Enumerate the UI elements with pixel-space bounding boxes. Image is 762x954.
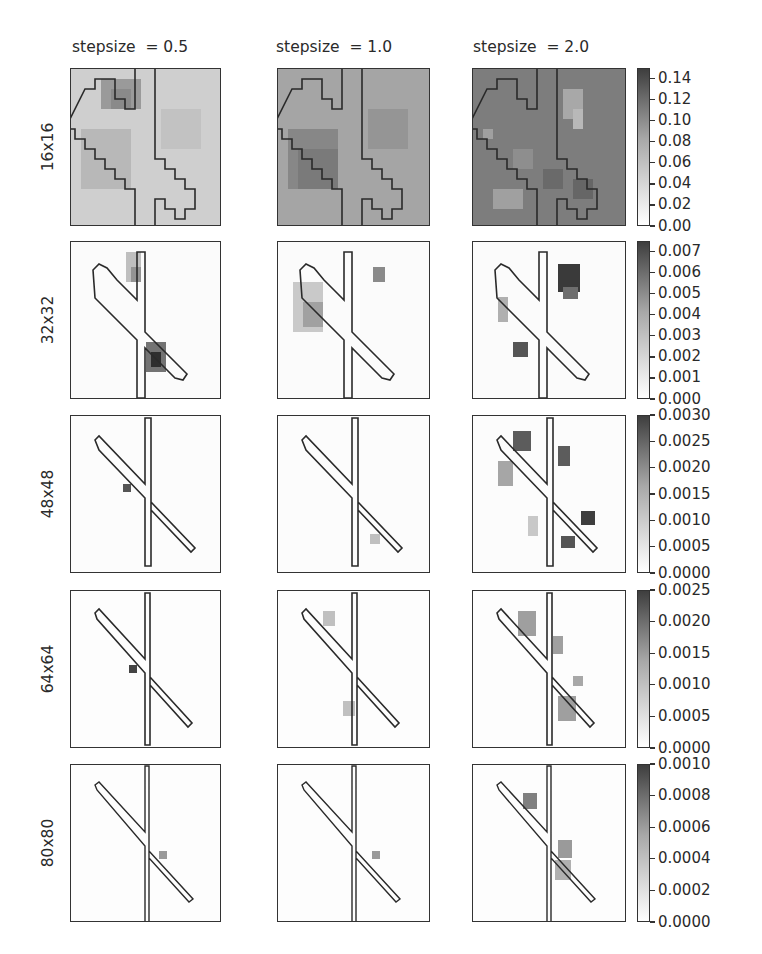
heatmap-32x32-step-2.0 — [472, 241, 626, 399]
colorbar-tick-label: 0.0008 — [658, 788, 711, 803]
colorbar-16x16 — [637, 68, 650, 226]
heatmap-image — [71, 242, 221, 399]
colorbar-tick-label: 0.0005 — [658, 709, 711, 724]
colorbar-tick-label: 0.001 — [658, 370, 701, 385]
colorbar-tick-label: 0.0010 — [658, 513, 711, 528]
heatmap-image — [473, 416, 626, 573]
colorbar-tick — [650, 684, 655, 685]
colorbar-tick — [650, 314, 655, 315]
heatmap-image — [473, 69, 626, 226]
colorbar-tick-label: 0.0015 — [658, 646, 711, 661]
colorbar-tick-label: 0.02 — [658, 197, 691, 212]
colorbar-tick — [650, 225, 655, 226]
colorbar-tick-label: 0.0030 — [658, 408, 711, 423]
colorbar-tick — [650, 272, 655, 273]
heatmap-image — [278, 69, 430, 226]
colorbar-tick-label: 0.08 — [658, 134, 691, 149]
row-label-64x64: 64x64 — [39, 629, 57, 709]
colorbar-tick-label: 0.000 — [658, 392, 701, 407]
heatmap-16x16-step-0.5 — [70, 68, 221, 226]
colorbar-tick-label: 0.002 — [658, 349, 701, 364]
colorbar-tick-label: 0.0025 — [658, 583, 711, 598]
heatmap-64x64-step-1.0 — [277, 590, 430, 748]
heatmap-48x48-step-0.5 — [70, 415, 221, 573]
colorbar-tick — [650, 204, 655, 205]
heatmap-32x32-step-1.0 — [277, 241, 430, 399]
colorbar-tick-label: 0.0020 — [658, 614, 711, 629]
colorbar-80x80 — [637, 764, 650, 922]
row-label-80x80: 80x80 — [39, 803, 57, 883]
heatmap-image — [71, 591, 221, 748]
colorbar-tick-label: 0.006 — [658, 265, 701, 280]
colorbar-tick — [650, 335, 655, 336]
colorbar-48x48 — [637, 415, 650, 573]
colorbar-tick-label: 0.0000 — [658, 741, 711, 756]
colorbar-tick — [650, 795, 655, 796]
colorbar-tick-label: 0.0015 — [658, 487, 711, 502]
colorbar-tick-label: 0.0000 — [658, 566, 711, 581]
column-title-stepsize-0.5: stepsize = 0.5 — [72, 38, 188, 56]
heatmap-image — [71, 69, 221, 226]
colorbar-tick — [650, 120, 655, 121]
colorbar-tick-label: 0.04 — [658, 176, 691, 191]
colorbar-64x64 — [637, 590, 650, 748]
colorbar-tick — [650, 589, 655, 590]
heatmap-image — [473, 765, 626, 922]
colorbar-tick-label: 0.0010 — [658, 757, 711, 772]
heatmap-image — [473, 591, 626, 748]
row-label-32x32: 32x32 — [39, 280, 57, 360]
heatmap-image — [278, 591, 430, 748]
colorbar-tick — [650, 293, 655, 294]
heatmap-16x16-step-2.0 — [472, 68, 626, 226]
colorbar-tick — [650, 653, 655, 654]
heatmap-64x64-step-2.0 — [472, 590, 626, 748]
colorbar-tick — [650, 441, 655, 442]
colorbar-tick — [650, 377, 655, 378]
colorbar-tick-label: 0.0004 — [658, 851, 711, 866]
colorbar-tick — [650, 546, 655, 547]
colorbar-32x32 — [637, 241, 650, 399]
colorbar-tick — [650, 621, 655, 622]
heatmap-image — [473, 242, 626, 399]
row-label-16x16: 16x16 — [39, 107, 57, 187]
colorbar-tick — [650, 747, 655, 748]
colorbar-tick — [650, 858, 655, 859]
heatmap-32x32-step-0.5 — [70, 241, 221, 399]
colorbar-tick-label: 0.007 — [658, 244, 701, 259]
colorbar-tick — [650, 141, 655, 142]
heatmap-48x48-step-2.0 — [472, 415, 626, 573]
colorbar-tick-label: 0.0005 — [658, 539, 711, 554]
colorbar-tick — [650, 78, 655, 79]
row-label-48x48: 48x48 — [39, 454, 57, 534]
heatmap-64x64-step-0.5 — [70, 590, 221, 748]
colorbar-tick-label: 0.005 — [658, 286, 701, 301]
heatmap-image — [278, 242, 430, 399]
heatmap-image — [71, 765, 221, 922]
colorbar-tick — [650, 467, 655, 468]
heatmap-image — [278, 416, 430, 573]
colorbar-tick-label: 0.0002 — [658, 883, 711, 898]
colorbar-tick-label: 0.14 — [658, 71, 691, 86]
colorbar-tick — [650, 398, 655, 399]
colorbar-tick-label: 0.0000 — [658, 915, 711, 930]
colorbar-tick-label: 0.06 — [658, 155, 691, 170]
colorbar-tick — [650, 162, 655, 163]
colorbar-tick — [650, 183, 655, 184]
colorbar-tick — [650, 251, 655, 252]
colorbar-tick-label: 0.0010 — [658, 677, 711, 692]
colorbar-tick — [650, 520, 655, 521]
heatmap-48x48-step-1.0 — [277, 415, 430, 573]
colorbar-tick — [650, 493, 655, 494]
colorbar-tick-label: 0.12 — [658, 92, 691, 107]
colorbar-tick — [650, 572, 655, 573]
heatmap-80x80-step-2.0 — [472, 764, 626, 922]
colorbar-tick — [650, 827, 655, 828]
colorbar-tick — [650, 716, 655, 717]
colorbar-tick — [650, 890, 655, 891]
column-title-stepsize-2.0: stepsize = 2.0 — [473, 38, 589, 56]
heatmap-image — [278, 765, 430, 922]
heatmap-80x80-step-1.0 — [277, 764, 430, 922]
colorbar-tick-label: 0.0025 — [658, 434, 711, 449]
colorbar-tick — [650, 99, 655, 100]
colorbar-tick-label: 0.003 — [658, 328, 701, 343]
